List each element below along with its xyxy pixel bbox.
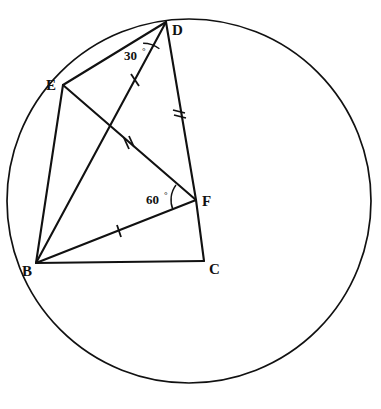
point-label-b: B [22, 263, 32, 279]
point-label-c: C [209, 261, 220, 277]
angle-label-d: 30 [124, 48, 137, 63]
segment-df [166, 22, 196, 200]
segment-fc [196, 200, 204, 261]
segment-bf [36, 200, 196, 263]
point-label-e: E [46, 77, 56, 93]
segment-bc [36, 261, 204, 263]
geometry-diagram: B C D E F 30 ° 60 ° [0, 0, 381, 409]
angle-arc-f [171, 185, 176, 210]
point-label-d: D [172, 22, 183, 38]
segment-bd [36, 22, 166, 263]
circumscribed-circle [7, 19, 371, 383]
point-label-f: F [202, 193, 211, 209]
geometry-canvas: B C D E F 30 ° 60 ° [0, 0, 381, 409]
angle-label-f: 60 [146, 192, 159, 207]
angle-degree-symbol-f: ° [164, 190, 168, 200]
angle-degree-symbol-d: ° [142, 46, 146, 56]
segment-ed [63, 22, 166, 85]
segment-ef [63, 85, 196, 200]
tick-df [173, 110, 186, 118]
